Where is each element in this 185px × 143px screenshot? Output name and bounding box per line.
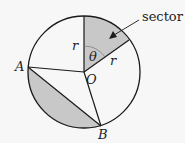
radius-OA (28, 67, 84, 72)
point-label-B: B (97, 127, 108, 142)
sector-label: sector (142, 9, 184, 24)
center-label-O: O (86, 72, 97, 87)
angle-label-theta: θ (89, 49, 97, 64)
circle-diagram: sector r r θ O A B (0, 0, 185, 143)
point-label-A: A (14, 59, 24, 74)
radius-label-top: r (72, 38, 79, 53)
radius-label-right: r (110, 53, 117, 68)
